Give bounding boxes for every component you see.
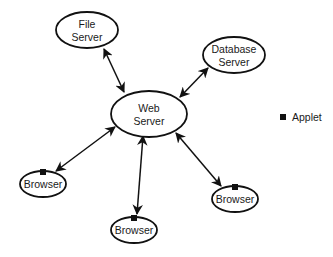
browser-left-label: Browser xyxy=(24,178,63,190)
file-server-label: Server xyxy=(72,31,103,43)
applet-icon xyxy=(131,215,137,221)
database-server-label: Database xyxy=(212,43,257,55)
browser-bottom-label: Browser xyxy=(115,224,154,236)
nodes: FileServerDatabaseServerWebServerBrowser… xyxy=(20,12,265,243)
web-server-label: Server xyxy=(134,115,165,127)
browser-right-label: Browser xyxy=(216,193,255,205)
web-server-label: Web xyxy=(138,102,160,114)
node-browser-left: Browser xyxy=(20,169,66,197)
applet-legend-icon xyxy=(280,114,286,120)
edge-web-server-to-browser-left xyxy=(56,127,115,171)
applet-icon xyxy=(40,169,46,175)
node-file-server: FileServer xyxy=(56,12,118,48)
database-server-label: Server xyxy=(219,56,250,68)
applet-icon xyxy=(232,184,238,190)
edge-web-server-to-browser-bottom xyxy=(137,136,143,214)
legend-label-applet: Applet xyxy=(292,111,322,123)
edge-web-server-to-browser-right xyxy=(176,133,221,186)
legend: Applet xyxy=(280,111,322,123)
node-web-server: WebServer xyxy=(111,91,187,137)
node-browser-right: Browser xyxy=(212,184,258,212)
node-browser-bottom: Browser xyxy=(111,215,157,243)
edge-file-server-to-web-server xyxy=(104,49,124,92)
edge-database-server-to-web-server xyxy=(180,68,208,97)
file-server-label: File xyxy=(79,18,96,30)
node-database-server: DatabaseServer xyxy=(203,37,265,73)
architecture-diagram: FileServerDatabaseServerWebServerBrowser… xyxy=(0,0,333,257)
